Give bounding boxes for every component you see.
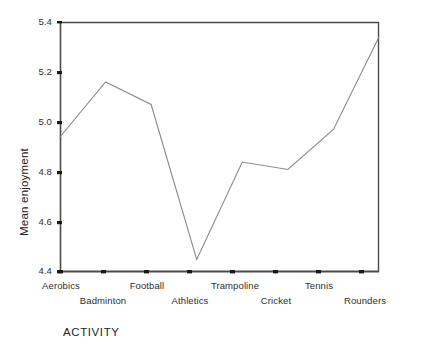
- y-axis-title: Mean enjoyment: [18, 127, 30, 257]
- y-tick-label-5-0: 5.0: [28, 117, 52, 127]
- line-chart: 5.4 5.2 5.0 4.8 4.6 4.4 Aerobics Badmint…: [0, 0, 421, 354]
- x-tick-label-football: Football: [112, 281, 182, 291]
- y-tick-label-5-4: 5.4: [28, 17, 52, 27]
- x-tick-label-badminton: Badminton: [68, 296, 138, 306]
- x-tick-label-rounders: Rounders: [328, 296, 402, 306]
- x-tick-label-cricket: Cricket: [241, 296, 311, 306]
- x-tick-label-aerobics: Aerobics: [26, 281, 96, 291]
- x-tick-label-tennis: Tennis: [284, 281, 354, 291]
- y-tick-label-4-6: 4.6: [28, 217, 52, 227]
- data-series-line: [60, 37, 379, 260]
- plot-frame: [60, 22, 379, 272]
- y-tick-label-5-2: 5.2: [28, 67, 52, 77]
- y-tick-label-4-4: 4.4: [28, 266, 52, 276]
- x-tick-label-athletics: Athletics: [155, 296, 225, 306]
- y-tick-label-4-8: 4.8: [28, 167, 52, 177]
- x-axis-title: ACTIVITY: [63, 326, 120, 338]
- x-tick-label-trampoline: Trampoline: [197, 281, 273, 291]
